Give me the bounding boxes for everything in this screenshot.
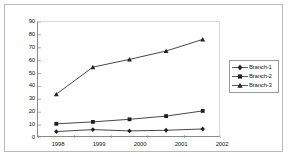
legend-label: Branch-3: [248, 82, 272, 89]
legend-marker-square-icon: [232, 72, 248, 81]
legend-marker-triangle-icon: [232, 81, 248, 90]
legend-item-branch-2[interactable]: Branch-2: [232, 72, 276, 81]
legend-label: Branch-2: [248, 73, 272, 80]
x-axis-tick-label: 2001: [166, 141, 196, 147]
chart-frame: 90 80 70 60 50 40 30 20 10 0 1998 1999 2…: [4, 4, 283, 152]
x-axis-tick-label: 1998: [43, 141, 73, 147]
legend-marker-diamond-icon: [232, 63, 248, 72]
legend-label: Branch-1: [248, 64, 272, 71]
x-axis-tick-label: 1999: [84, 141, 114, 147]
legend-item-branch-1[interactable]: Branch-1: [232, 63, 276, 72]
chart-legend: Branch-1 Branch-2 Branch-3: [229, 60, 279, 93]
x-axis-tick-label: 2002: [207, 141, 237, 147]
x-axis-tick-label: 2000: [125, 141, 155, 147]
legend-item-branch-3[interactable]: Branch-3: [232, 81, 276, 90]
